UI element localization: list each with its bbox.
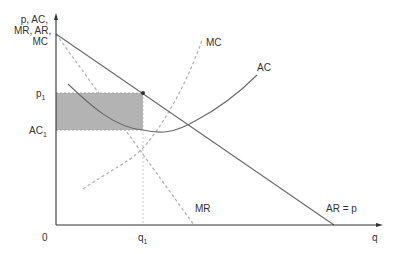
- p1-sub: 1: [42, 94, 46, 101]
- ac1-text: AC: [29, 125, 43, 136]
- ar-label: AR = p: [326, 203, 357, 214]
- ac-label: AC: [257, 62, 271, 73]
- y-label-line3: MC: [14, 36, 48, 47]
- p1-label: p1: [36, 88, 45, 103]
- q1-sub: 1: [144, 238, 148, 245]
- y-axis-label: p, AC, MR, AR, MC: [14, 14, 48, 47]
- y-label-line2: MR, AR,: [14, 25, 48, 36]
- mr-label: MR: [195, 203, 211, 214]
- mc-label: MC: [206, 37, 222, 48]
- ac1-label: AC1: [29, 125, 47, 140]
- origin-label: 0: [42, 232, 48, 243]
- diagram-canvas: [0, 0, 397, 254]
- profit-max-point: [141, 91, 145, 95]
- y-label-line1: p, AC,: [14, 14, 48, 25]
- q1-label: q1: [138, 232, 147, 247]
- ac1-sub: 1: [43, 131, 47, 138]
- x-axis-label: q: [372, 232, 378, 243]
- x-axis-arrow: [376, 223, 383, 227]
- y-axis-arrow: [54, 13, 58, 20]
